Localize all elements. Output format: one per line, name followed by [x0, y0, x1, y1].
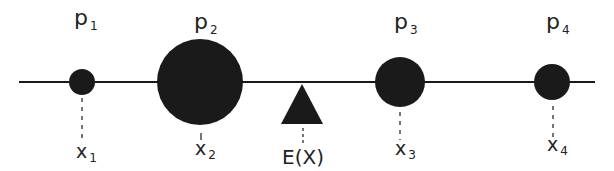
value-label-x1: x1: [76, 140, 97, 165]
mass-p3: p3 x3: [375, 9, 425, 162]
fulcrum-expected-value: E(X): [281, 84, 324, 169]
value-label-x4: x4: [547, 133, 568, 158]
mass-circle-icon: [69, 69, 95, 95]
mass-p4: p4 x4: [534, 9, 570, 158]
expected-value-label: E(X): [282, 145, 324, 169]
expected-value-diagram: p1 x1 p2 x2 E(X) p3 x3 p4 x4: [0, 0, 614, 171]
prob-label-p2: p2: [194, 9, 218, 37]
mass-p2: p2 x2: [157, 9, 243, 162]
prob-label-p1: p1: [74, 5, 98, 33]
value-label-x2: x2: [195, 137, 216, 162]
mass-circle-icon: [534, 64, 570, 100]
prob-label-p3: p3: [394, 9, 418, 37]
triangle-icon: [281, 84, 323, 124]
prob-label-p4: p4: [546, 9, 570, 37]
mass-p1: p1 x1: [69, 5, 98, 165]
value-label-x3: x3: [395, 137, 416, 162]
mass-circle-icon: [157, 39, 243, 125]
mass-circle-icon: [375, 57, 425, 107]
